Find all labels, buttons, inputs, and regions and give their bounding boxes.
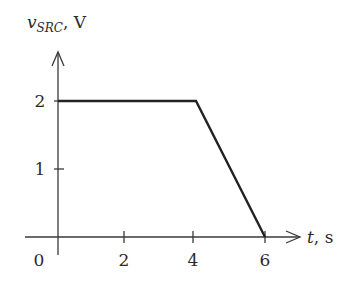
y-tick-label-2: 2 bbox=[35, 91, 46, 111]
x-axis-label: t, s bbox=[307, 227, 333, 247]
x-tick-label-2: 2 bbox=[119, 250, 130, 270]
x-tick-label-0: 0 bbox=[34, 250, 45, 270]
chart-svg: 1 2 0 2 4 6 vSRC, V t, s bbox=[0, 0, 356, 283]
x-axis bbox=[25, 231, 300, 243]
y-axis-label-symbol: v bbox=[27, 12, 37, 32]
y-axis-label: vSRC, V bbox=[27, 12, 87, 35]
y-axis-label-unit: , V bbox=[63, 12, 87, 32]
y-axis-label-subscript: SRC bbox=[37, 21, 63, 35]
data-series-line bbox=[58, 101, 265, 237]
y-ticks: 1 2 bbox=[35, 91, 64, 179]
chart-container: 1 2 0 2 4 6 vSRC, V t, s bbox=[0, 0, 356, 283]
y-tick-label-1: 1 bbox=[35, 159, 46, 179]
x-axis-label-unit: , s bbox=[314, 227, 334, 247]
x-tick-label-4: 4 bbox=[188, 250, 199, 270]
y-axis bbox=[52, 52, 64, 255]
x-tick-label-6: 6 bbox=[260, 250, 271, 270]
